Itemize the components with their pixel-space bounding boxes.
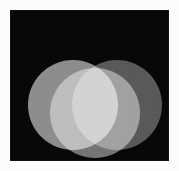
venn-circle-top: [50, 68, 140, 158]
venn-diagram: [10, 10, 169, 161]
black-plate: [10, 10, 169, 161]
figure-root: Three overlapping light-grey discs on a …: [0, 0, 179, 171]
